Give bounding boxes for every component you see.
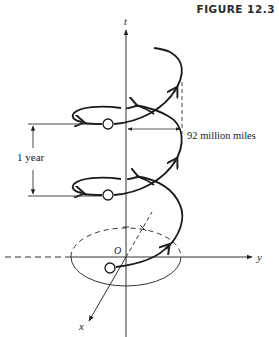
earth-position-top (103, 119, 113, 129)
t-axis-label: t (124, 16, 127, 27)
helix-diagram: 1 year 92 million miles t y x O (0, 0, 279, 337)
radius-label: 92 million miles (187, 130, 256, 141)
period-label: 1 year (17, 151, 45, 163)
y-axis-label: y (256, 251, 262, 263)
helix-curve (73, 48, 183, 267)
radius-indicator (128, 82, 182, 134)
t-axis (123, 30, 129, 337)
origin-label: O (114, 245, 121, 256)
x-axis-label: x (78, 320, 84, 332)
earth-position-bottom (105, 263, 115, 273)
earth-position-middle (103, 190, 113, 200)
